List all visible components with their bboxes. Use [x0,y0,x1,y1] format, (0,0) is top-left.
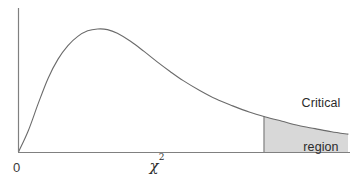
critical-region-label: Critical region [283,66,359,184]
x-axis-label: χ2 [136,157,178,176]
critical-region-label-line2: region [283,140,359,155]
chi-symbol: χ [150,157,159,175]
chi-exponent: 2 [159,152,165,162]
origin-tick-label: 0 [13,160,20,175]
chi-square-distribution-chart: Critical region 0 χ2 [0,0,360,184]
critical-region-label-line1: Critical [283,96,359,111]
